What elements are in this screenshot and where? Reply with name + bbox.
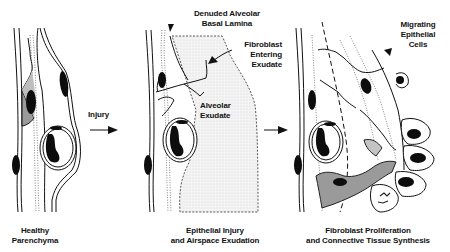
caption-line: Healthy	[0, 226, 70, 236]
arrow-right-icon	[278, 126, 288, 134]
caption-injury: Epithelial Injury and Airspace Exudation	[150, 226, 280, 246]
fibroblast-annotation: Fibroblast Entering Exudate	[226, 40, 282, 70]
exudate-annotation: Alveolar Exudate	[200, 101, 231, 121]
annotation-line: Exudate	[226, 60, 282, 70]
annotation-line: Migrating	[388, 20, 448, 30]
caption-line: Parenchyma	[0, 236, 70, 246]
annotation-line: Epithelial	[388, 30, 448, 40]
caption-repair: Fibroblast Proliferation and Connective …	[286, 226, 450, 246]
progression-transition	[264, 126, 288, 134]
annotation-line: Fibroblast	[226, 40, 282, 50]
annotation-line: Entering	[226, 50, 282, 60]
annotation-line: Basal Lamina	[182, 19, 272, 29]
caption-line: and Connective Tissue Synthesis	[286, 236, 450, 246]
repair-panel-drawing	[294, 22, 434, 212]
diagram-figure: Injury Denuded Alveolar Basal Lamina Fib…	[0, 0, 450, 252]
annotation-line: Exudate	[200, 111, 231, 121]
caption-line: Epithelial Injury	[150, 226, 280, 236]
caption-healthy: Healthy Parenchyma	[0, 226, 70, 246]
caption-line: and Airspace Exudation	[150, 236, 280, 246]
injury-label: Injury	[88, 110, 109, 120]
arrow-right-icon	[108, 126, 118, 134]
annotation-line: Alveolar	[200, 101, 231, 111]
annotation-line: Cells	[388, 40, 448, 50]
pointer-arrow-icon	[168, 24, 174, 32]
caption-line: Fibroblast Proliferation	[286, 226, 450, 236]
migrating-cells-annotation: Migrating Epithelial Cells	[388, 20, 448, 50]
basal-lamina-annotation: Denuded Alveolar Basal Lamina	[182, 9, 272, 29]
injury-transition	[90, 126, 118, 134]
annotation-line: Denuded Alveolar	[182, 9, 272, 19]
healthy-panel-drawing	[12, 28, 81, 212]
